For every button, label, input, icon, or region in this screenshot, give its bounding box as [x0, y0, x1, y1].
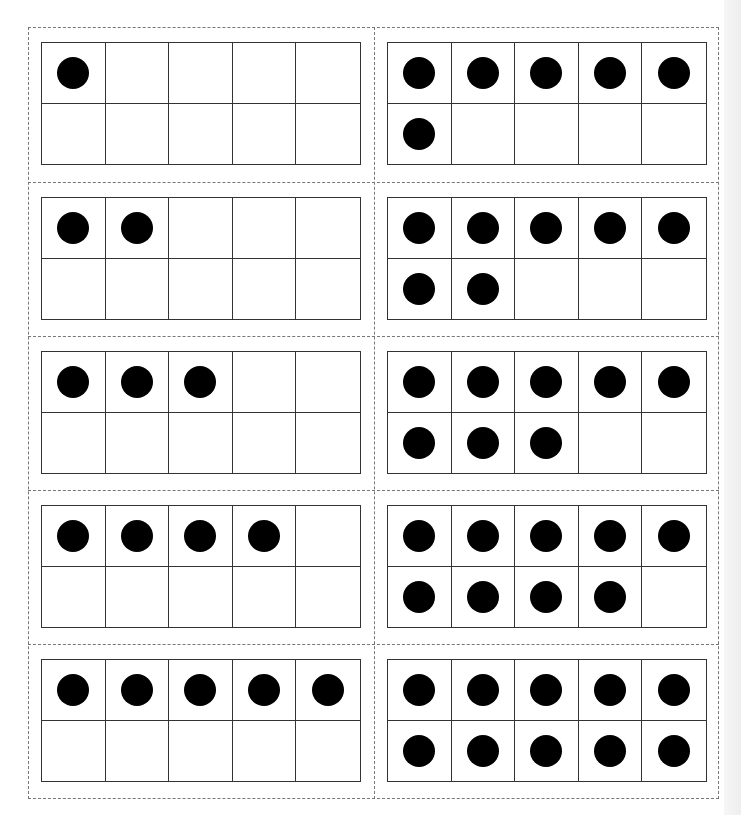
counter-dot-icon: [467, 366, 499, 398]
counter-dot-icon: [467, 57, 499, 89]
counter-dot-icon: [403, 212, 435, 244]
ten-frame-cell: [233, 198, 297, 259]
ten-frame-cell: [452, 43, 516, 104]
ten-frame: [41, 351, 361, 474]
ten-frame-cell: [579, 567, 643, 628]
counter-dot-icon: [658, 674, 690, 706]
ten-frame-card-row5-right: [374, 644, 720, 798]
ten-frame-card-row5-left: [28, 644, 374, 798]
ten-frame-cell: [169, 413, 233, 474]
ten-frame: [41, 659, 361, 782]
ten-frame-cell: [452, 259, 516, 320]
ten-frame-card-row4-right: [374, 490, 720, 644]
counter-dot-icon: [403, 366, 435, 398]
counter-dot-icon: [403, 57, 435, 89]
counter-dot-icon: [594, 212, 626, 244]
counter-dot-icon: [403, 520, 435, 552]
ten-frame-cell: [169, 721, 233, 782]
ten-frame-cell: [296, 506, 360, 567]
counter-dot-icon: [467, 273, 499, 305]
counter-dot-icon: [658, 366, 690, 398]
ten-frame-sheet: [28, 27, 719, 799]
counter-dot-icon: [403, 581, 435, 613]
ten-frame-cell: [42, 352, 106, 413]
ten-frame-cell: [296, 721, 360, 782]
counter-dot-icon: [658, 520, 690, 552]
counter-dot-icon: [184, 366, 216, 398]
counter-dot-icon: [312, 674, 344, 706]
ten-frame-cell: [452, 352, 516, 413]
ten-frame-cell: [106, 506, 170, 567]
ten-frame: [41, 42, 361, 165]
ten-frame-cell: [579, 104, 643, 165]
ten-frame-cell: [296, 660, 360, 721]
counter-dot-icon: [467, 581, 499, 613]
ten-frame-cell: [579, 43, 643, 104]
ten-frame-cell: [515, 660, 579, 721]
ten-frame-cell: [296, 104, 360, 165]
ten-frame-cell: [106, 413, 170, 474]
counter-dot-icon: [594, 57, 626, 89]
ten-frame: [387, 197, 707, 320]
ten-frame-cell: [296, 259, 360, 320]
ten-frame-cell: [233, 567, 297, 628]
ten-frame-cell: [106, 660, 170, 721]
counter-dot-icon: [594, 520, 626, 552]
ten-frame-cell: [388, 352, 452, 413]
counter-dot-icon: [403, 427, 435, 459]
counter-dot-icon: [530, 674, 562, 706]
counter-dot-icon: [403, 273, 435, 305]
counter-dot-icon: [403, 735, 435, 767]
ten-frame: [41, 505, 361, 628]
ten-frame-cell: [452, 198, 516, 259]
ten-frame-cell: [106, 567, 170, 628]
ten-frame-cell: [233, 721, 297, 782]
ten-frame-cell: [169, 352, 233, 413]
counter-dot-icon: [403, 674, 435, 706]
ten-frame-cell: [579, 660, 643, 721]
ten-frame-cell: [515, 567, 579, 628]
ten-frame-cell: [106, 721, 170, 782]
counter-dot-icon: [184, 674, 216, 706]
ten-frame-cell: [579, 198, 643, 259]
ten-frame-cell: [452, 721, 516, 782]
counter-dot-icon: [530, 212, 562, 244]
ten-frame-cell: [642, 567, 706, 628]
counter-dot-icon: [57, 366, 89, 398]
ten-frame-cell: [642, 198, 706, 259]
ten-frame-cell: [388, 721, 452, 782]
ten-frame-cell: [642, 506, 706, 567]
ten-frame-cell: [42, 660, 106, 721]
counter-dot-icon: [248, 520, 280, 552]
page-edge-shadow: [724, 0, 741, 815]
counter-dot-icon: [121, 520, 153, 552]
counter-dot-icon: [467, 427, 499, 459]
counter-dot-icon: [658, 735, 690, 767]
ten-frame-cell: [388, 198, 452, 259]
ten-frame-cell: [233, 104, 297, 165]
ten-frame: [387, 659, 707, 782]
ten-frame-cell: [452, 104, 516, 165]
ten-frame-cell: [579, 352, 643, 413]
counter-dot-icon: [530, 581, 562, 613]
ten-frame-cell: [106, 259, 170, 320]
ten-frame-cell: [42, 259, 106, 320]
counter-dot-icon: [467, 212, 499, 244]
ten-frame: [387, 505, 707, 628]
ten-frame-card-row1-right: [374, 27, 720, 181]
ten-frame-cell: [388, 43, 452, 104]
ten-frame-card-row2-left: [28, 182, 374, 336]
ten-frame-cell: [169, 43, 233, 104]
ten-frame: [41, 197, 361, 320]
ten-frame-cell: [452, 567, 516, 628]
ten-frame-cell: [42, 721, 106, 782]
counter-dot-icon: [530, 520, 562, 552]
ten-frame-cell: [515, 721, 579, 782]
ten-frame-cell: [642, 43, 706, 104]
ten-frame-cell: [579, 259, 643, 320]
ten-frame-cell: [642, 721, 706, 782]
ten-frame-cell: [233, 43, 297, 104]
counter-dot-icon: [594, 735, 626, 767]
ten-frame-cell: [42, 198, 106, 259]
ten-frame-cell: [579, 413, 643, 474]
